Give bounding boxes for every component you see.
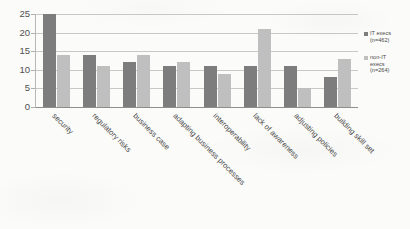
legend-label: IT execs (n=462) <box>370 30 391 43</box>
legend-label: non-IT execs (n=264) <box>370 54 389 74</box>
y-axis-tick-label: 25 <box>2 9 30 19</box>
legend-swatch-icon <box>364 32 368 36</box>
bar <box>244 66 257 107</box>
bar-group <box>318 14 358 107</box>
bar <box>177 62 190 107</box>
bar <box>324 77 337 107</box>
plot-area <box>36 14 358 107</box>
legend-item[interactable]: IT execs (n=462) <box>364 30 408 43</box>
bar <box>83 55 96 107</box>
grouped-bar-chart: 2520151050 securityregulatory risksbusin… <box>0 0 410 229</box>
legend-item[interactable]: non-IT execs (n=264) <box>364 54 408 74</box>
chart-legend: IT execs (n=462)non-IT execs (n=264) <box>364 30 408 85</box>
bar-group <box>36 14 76 107</box>
bar <box>43 14 56 107</box>
y-axis-tick-label: 20 <box>2 28 30 38</box>
y-axis-tick-label: 15 <box>2 46 30 56</box>
bar <box>298 88 311 107</box>
y-axis-tick-label: 0 <box>2 102 30 112</box>
bar-group <box>117 14 157 107</box>
bar-group <box>237 14 277 107</box>
bar-group <box>76 14 116 107</box>
bar <box>97 66 110 107</box>
bar-group <box>157 14 197 107</box>
bar <box>57 55 70 107</box>
bar <box>137 55 150 107</box>
bar <box>163 66 176 107</box>
bar <box>338 59 351 107</box>
bar <box>284 66 297 107</box>
x-axis-baseline <box>36 107 358 109</box>
bar <box>204 66 217 107</box>
bar <box>258 29 271 107</box>
y-axis-tick-label: 10 <box>2 65 30 75</box>
bar-group <box>278 14 318 107</box>
legend-swatch-icon <box>364 56 368 60</box>
bar-group <box>197 14 237 107</box>
bar <box>123 62 136 107</box>
bar-series-container <box>36 14 358 107</box>
bar <box>218 74 231 107</box>
y-axis-tick-label: 5 <box>2 83 30 93</box>
